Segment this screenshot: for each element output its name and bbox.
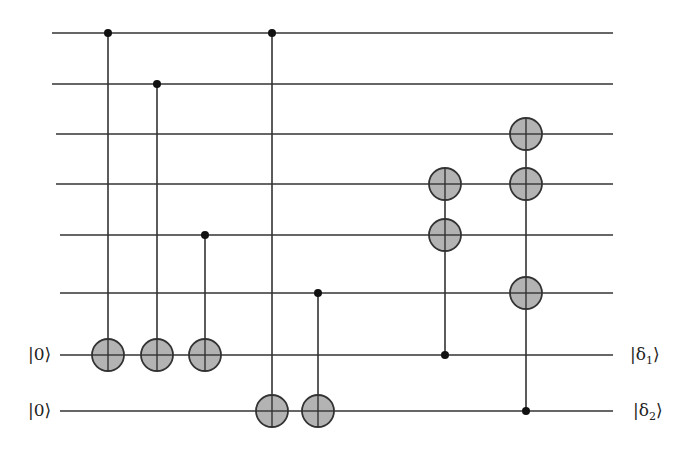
gate-fanout-2 bbox=[510, 118, 542, 415]
control-dot-icon bbox=[441, 351, 449, 359]
cnot-target-icon bbox=[510, 168, 542, 200]
ket-delta-prefix: |δ bbox=[633, 400, 649, 420]
ket-delta-suffix: ⟩ bbox=[653, 344, 660, 364]
cnot-target-icon bbox=[429, 168, 461, 200]
gate-cnot-1 bbox=[92, 29, 124, 371]
gate-cnot-2 bbox=[141, 80, 173, 371]
ket-delta-subscript: 2 bbox=[649, 410, 656, 423]
input-label-ancilla-2: |0⟩ bbox=[28, 402, 51, 419]
gate-cnot-4 bbox=[256, 29, 288, 427]
cnot-target-icon bbox=[189, 339, 221, 371]
cnot-target-icon bbox=[92, 339, 124, 371]
ket-delta-prefix: |δ bbox=[630, 344, 646, 364]
gate-cnot-3 bbox=[189, 231, 221, 371]
ket-zero-text: |0⟩ bbox=[28, 344, 51, 364]
control-dot-icon bbox=[104, 29, 112, 37]
ket-zero-text: |0⟩ bbox=[28, 400, 51, 420]
output-label-delta-2: |δ2⟩ bbox=[633, 402, 663, 422]
control-dot-icon bbox=[268, 29, 276, 37]
gates bbox=[92, 29, 542, 427]
output-label-delta-1: |δ1⟩ bbox=[630, 346, 660, 366]
gate-cnot-5 bbox=[302, 289, 334, 427]
input-label-ancilla-1: |0⟩ bbox=[28, 346, 51, 363]
cnot-target-icon bbox=[141, 339, 173, 371]
cnot-target-icon bbox=[302, 395, 334, 427]
cnot-target-icon bbox=[429, 219, 461, 251]
control-dot-icon bbox=[522, 407, 530, 415]
control-dot-icon bbox=[201, 231, 209, 239]
cnot-target-icon bbox=[510, 118, 542, 150]
cnot-target-icon bbox=[510, 277, 542, 309]
ket-delta-subscript: 1 bbox=[646, 354, 653, 367]
control-dot-icon bbox=[153, 80, 161, 88]
cnot-target-icon bbox=[256, 395, 288, 427]
ket-delta-suffix: ⟩ bbox=[656, 400, 663, 420]
gate-fanout-1 bbox=[429, 168, 461, 359]
control-dot-icon bbox=[314, 289, 322, 297]
wires bbox=[52, 33, 613, 411]
quantum-circuit bbox=[0, 0, 689, 451]
